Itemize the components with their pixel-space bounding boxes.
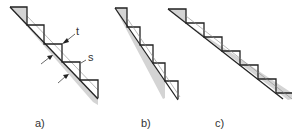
annotation-t: t <box>76 25 79 37</box>
panel-c-soffit <box>168 9 283 99</box>
annotation-s: s <box>88 51 94 63</box>
panel-b: b) <box>115 8 180 129</box>
caption-b: b) <box>141 117 151 129</box>
panel-c: c) <box>168 9 292 129</box>
t-arrowhead-left <box>47 55 53 60</box>
panel-b-slab <box>115 8 165 99</box>
stair-diagram: t s a) b) c) <box>0 0 298 136</box>
panel-b-soffit <box>115 8 178 100</box>
panel-a: t s a) <box>10 7 98 129</box>
caption-c: c) <box>215 117 224 129</box>
panel-c-slab-edge <box>186 16 292 99</box>
t-arrowhead <box>62 38 69 44</box>
panel-b-slab-edge <box>127 18 180 97</box>
panel-a-soffit <box>10 7 98 99</box>
s-arrow-line <box>81 60 86 63</box>
caption-a: a) <box>35 117 45 129</box>
panel-c-steps <box>168 9 292 93</box>
